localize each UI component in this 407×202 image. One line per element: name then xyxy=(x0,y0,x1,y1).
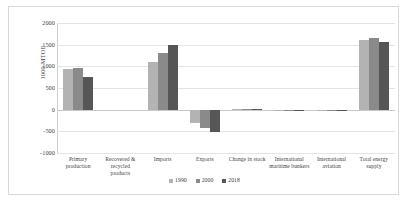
y-tick-label: 1500 xyxy=(11,42,55,48)
bar-group-bars xyxy=(184,23,226,153)
bar xyxy=(369,38,379,110)
y-tick-label: -1000 xyxy=(11,150,55,156)
y-tick-label: 500 xyxy=(11,85,55,91)
legend-swatch-icon xyxy=(169,179,173,183)
bar-group xyxy=(142,23,184,153)
legend-swatch-icon xyxy=(196,179,200,183)
bar-group-bars xyxy=(99,23,141,153)
bar xyxy=(83,77,93,110)
y-tick-label: 1000 xyxy=(11,63,55,69)
bar xyxy=(190,110,200,123)
bar-group xyxy=(226,23,268,153)
bar xyxy=(73,68,83,110)
bar xyxy=(379,42,389,110)
plot-area xyxy=(57,23,395,153)
bar-group-bars xyxy=(353,23,395,153)
bar-group-bars xyxy=(142,23,184,153)
legend-swatch-icon xyxy=(222,179,226,183)
bar-chart-figure: 1000 MTOE 2000150010005000-500-1000 Prim… xyxy=(0,0,407,202)
bar xyxy=(337,110,347,111)
bar-group-bars xyxy=(57,23,99,153)
bar xyxy=(168,45,178,110)
gridline xyxy=(57,153,395,154)
bar-group xyxy=(99,23,141,153)
legend-label: 2000 xyxy=(202,178,214,184)
y-tick-label: 2000 xyxy=(11,20,55,26)
bar xyxy=(63,69,73,110)
bar-group-bars xyxy=(268,23,310,153)
bar xyxy=(284,110,294,111)
y-tick-label: -500 xyxy=(11,128,55,134)
bar xyxy=(359,40,369,109)
legend-label: 2018 xyxy=(228,178,240,184)
bar xyxy=(158,53,168,109)
bar xyxy=(210,110,220,133)
legend-item[interactable]: 2018 xyxy=(222,178,240,184)
bar-groups xyxy=(57,23,395,153)
bar xyxy=(327,110,337,111)
bar xyxy=(200,110,210,128)
legend-label: 1990 xyxy=(175,178,187,184)
y-axis-tick-labels: 2000150010005000-500-1000 xyxy=(9,23,55,153)
bar-group xyxy=(353,23,395,153)
bar-group-bars xyxy=(311,23,353,153)
legend-item[interactable]: 2000 xyxy=(196,178,214,184)
chart-frame: 1000 MTOE 2000150010005000-500-1000 Prim… xyxy=(8,6,399,195)
bar xyxy=(294,110,304,112)
bar-group xyxy=(57,23,99,153)
bar xyxy=(274,110,284,111)
bar xyxy=(148,62,158,110)
y-tick-label: 0 xyxy=(11,107,55,113)
bar-group xyxy=(311,23,353,153)
bar-group-bars xyxy=(226,23,268,153)
bar-group xyxy=(268,23,310,153)
legend-item[interactable]: 1990 xyxy=(169,178,187,184)
chart-legend: 199020002018 xyxy=(9,178,400,184)
bar-group xyxy=(184,23,226,153)
